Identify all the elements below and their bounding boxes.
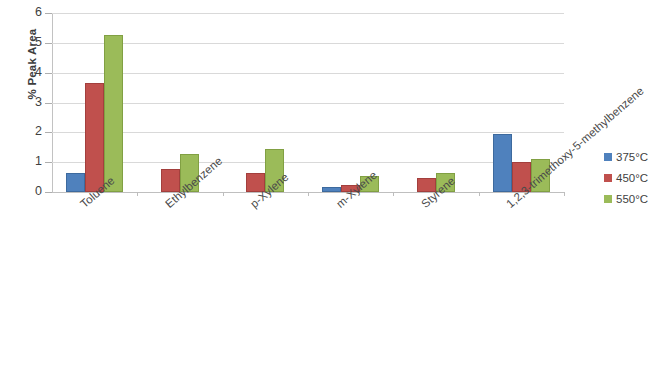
x-axis-tick (137, 192, 138, 196)
y-axis-tick-label: 4 (2, 66, 42, 79)
bar-group (393, 13, 478, 192)
y-axis-tick-label: 6 (2, 6, 42, 19)
legend-swatch-icon (604, 153, 612, 161)
y-axis-tick (45, 73, 52, 74)
y-axis-tick (45, 13, 52, 14)
y-axis-tick (45, 43, 52, 44)
bar-group (223, 13, 308, 192)
y-axis-tick (45, 162, 52, 163)
bar (85, 83, 104, 192)
legend-label: 450°C (616, 172, 648, 184)
y-axis-tick-label: 5 (2, 36, 42, 49)
y-axis-tick-label: 3 (2, 96, 42, 109)
bar-chart: % Peak Area 6543210 TolueneEthylbenzenep… (0, 0, 655, 368)
bar-group (308, 13, 393, 192)
y-axis-tick-labels: 6543210 (0, 0, 42, 368)
y-axis-tick-label: 2 (2, 125, 42, 138)
bar (493, 134, 512, 192)
x-axis-tick (479, 192, 480, 196)
legend-item: 375°C (604, 148, 655, 165)
bar (66, 173, 85, 192)
legend: 375°C450°C550°C (604, 148, 655, 211)
bar (322, 187, 341, 192)
y-axis-tick-label: 0 (2, 185, 42, 198)
bar-group (52, 13, 137, 192)
x-axis-tick (308, 192, 309, 196)
y-axis-tick (45, 192, 52, 193)
legend-item: 550°C (604, 190, 655, 207)
legend-label: 550°C (616, 193, 648, 205)
y-axis-tick (45, 132, 52, 133)
plot-area (52, 13, 564, 192)
x-axis-tick (393, 192, 394, 196)
y-axis-tick-label: 1 (2, 155, 42, 168)
x-axis-tick (564, 192, 565, 196)
legend-item: 450°C (604, 169, 655, 186)
bar (104, 35, 123, 192)
x-axis-tick (223, 192, 224, 196)
y-axis-tick (45, 103, 52, 104)
legend-label: 375°C (616, 151, 648, 163)
legend-swatch-icon (604, 195, 612, 203)
legend-swatch-icon (604, 174, 612, 182)
